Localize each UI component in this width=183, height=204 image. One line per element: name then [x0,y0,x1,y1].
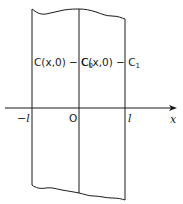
right-region-label-subscript: 1 [136,62,140,70]
diffusion-couple-diagram [0,0,183,204]
right-region-label: C(x,0) − C1 [81,57,140,70]
tick-label-origin: O [69,113,77,124]
x-axis-label: x [170,114,176,125]
tick-label-minus-l: −l [17,113,30,124]
right-region-label-main: C(x,0) − C [81,56,136,68]
tick-label-l: l [128,113,132,124]
